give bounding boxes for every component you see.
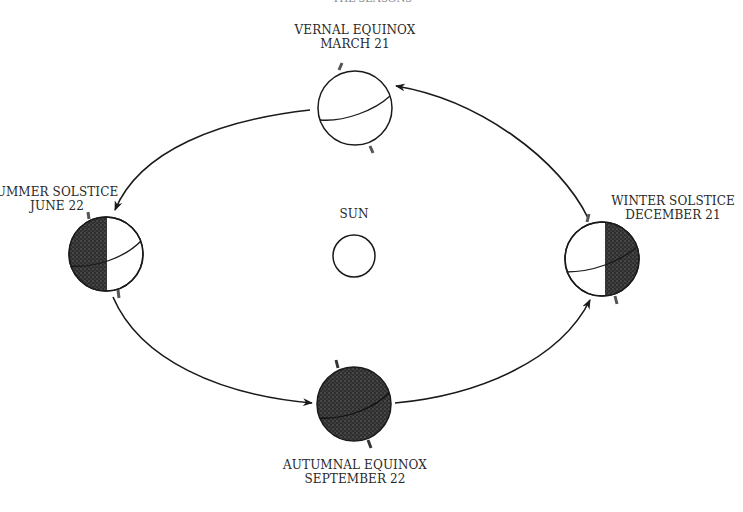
earth-winter-solstice (565, 214, 645, 304)
autumnal-name: AUTUMNAL EQUINOX (279, 458, 431, 472)
winter-date: DECEMBER 21 (600, 208, 743, 222)
autumnal-date: SEPTEMBER 22 (279, 472, 431, 486)
label-sun: SUN (324, 207, 384, 221)
label-autumnal-equinox: AUTUMNAL EQUINOX SEPTEMBER 22 (279, 458, 431, 486)
earth-vernal (318, 63, 392, 153)
sun-circle (333, 235, 375, 277)
vernal-date: MARCH 21 (285, 37, 425, 51)
label-winter-solstice: WINTER SOLSTICE DECEMBER 21 (600, 194, 743, 222)
winter-name: WINTER SOLSTICE (600, 194, 743, 208)
sun-label: SUN (324, 207, 384, 221)
orbit-graphic (0, 0, 743, 512)
arrow-winter-to-vernal (396, 86, 588, 218)
earth-summer-solstice (66, 212, 143, 298)
label-vernal-equinox: VERNAL EQUINOX MARCH 21 (285, 23, 425, 51)
vernal-name: VERNAL EQUINOX (285, 23, 425, 37)
summer-name: UMMER SOLSTICE (0, 185, 122, 199)
arrow-vernal-to-summer (115, 110, 310, 210)
arrow-autumnal-to-winter (395, 300, 590, 403)
earth-autumnal (317, 360, 391, 448)
summer-date: JUNE 22 (0, 199, 122, 213)
arrow-summer-to-autumnal (113, 297, 312, 403)
seasons-diagram: THE SEASONS (0, 0, 743, 512)
label-summer-solstice: UMMER SOLSTICE JUNE 22 (0, 185, 122, 213)
